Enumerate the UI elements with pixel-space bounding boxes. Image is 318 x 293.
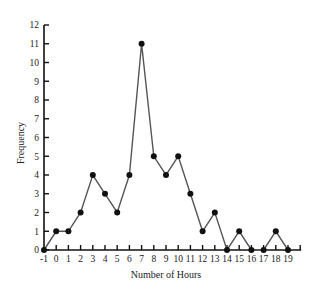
frequency-line bbox=[44, 44, 288, 250]
x-tick-label: 2 bbox=[78, 254, 83, 264]
data-point-marker bbox=[90, 172, 96, 178]
x-tick-label: 18 bbox=[271, 254, 281, 264]
frequency-polygon-chart: 0123456789101112 -1012345678910111213141… bbox=[0, 0, 318, 293]
data-point-marker bbox=[248, 247, 254, 253]
x-tick-label: 13 bbox=[210, 254, 220, 264]
data-point-marker bbox=[175, 153, 181, 159]
data-point-marker bbox=[273, 228, 279, 234]
x-tick-label: 12 bbox=[198, 254, 208, 264]
data-point-marker bbox=[53, 228, 59, 234]
x-tick-label: 16 bbox=[247, 254, 257, 264]
x-tick-label: 14 bbox=[222, 254, 232, 264]
y-tick-label: 3 bbox=[34, 189, 39, 199]
y-tick-label: 1 bbox=[34, 227, 39, 237]
x-tick-label: 0 bbox=[54, 254, 59, 264]
x-tick-label: 4 bbox=[103, 254, 108, 264]
y-tick-label: 2 bbox=[34, 208, 39, 218]
x-tick-label: 11 bbox=[186, 254, 195, 264]
x-tick-label: 5 bbox=[115, 254, 120, 264]
data-point-marker bbox=[236, 228, 242, 234]
data-point-marker bbox=[261, 247, 267, 253]
y-tick-label: 10 bbox=[30, 58, 40, 68]
data-point-marker bbox=[41, 247, 47, 253]
x-tick-label: 8 bbox=[151, 254, 156, 264]
y-tick-label: 8 bbox=[34, 95, 39, 105]
data-point-marker bbox=[163, 172, 169, 178]
y-tick-label: 12 bbox=[30, 20, 40, 30]
data-series bbox=[41, 41, 291, 253]
data-point-marker bbox=[65, 228, 71, 234]
y-tick-label: 7 bbox=[34, 114, 39, 124]
x-tick-label: 9 bbox=[164, 254, 169, 264]
y-tick-label: 6 bbox=[34, 133, 39, 143]
data-point-marker bbox=[187, 191, 193, 197]
x-tick-label: 19 bbox=[283, 254, 293, 264]
x-tick-label: 7 bbox=[139, 254, 144, 264]
data-point-marker bbox=[139, 41, 145, 47]
data-point-marker bbox=[224, 247, 230, 253]
x-tick-label: 17 bbox=[259, 254, 269, 264]
data-point-marker bbox=[200, 228, 206, 234]
data-point-marker bbox=[114, 210, 120, 216]
data-point-marker bbox=[102, 191, 108, 197]
data-point-marker bbox=[285, 247, 291, 253]
y-axis-title: Frequency bbox=[15, 122, 26, 164]
data-point-marker bbox=[126, 172, 132, 178]
y-tick-label: 11 bbox=[30, 39, 39, 49]
y-tick-label: 5 bbox=[34, 152, 39, 162]
y-tick-label: 9 bbox=[34, 77, 39, 87]
data-point-marker bbox=[78, 210, 84, 216]
x-axis-title: Number of Hours bbox=[131, 269, 202, 280]
data-point-marker bbox=[212, 210, 218, 216]
y-axis: 0123456789101112 bbox=[30, 20, 50, 255]
x-tick-label: 10 bbox=[173, 254, 183, 264]
x-tick-label: 3 bbox=[90, 254, 95, 264]
x-tick-label: 6 bbox=[127, 254, 132, 264]
y-tick-label: 0 bbox=[34, 245, 39, 255]
x-tick-label: -1 bbox=[40, 254, 48, 264]
chart-canvas: 0123456789101112 -1012345678910111213141… bbox=[0, 0, 318, 293]
data-point-marker bbox=[151, 153, 157, 159]
x-tick-label: 15 bbox=[234, 254, 244, 264]
x-tick-label: 1 bbox=[66, 254, 71, 264]
y-tick-label: 4 bbox=[34, 170, 39, 180]
